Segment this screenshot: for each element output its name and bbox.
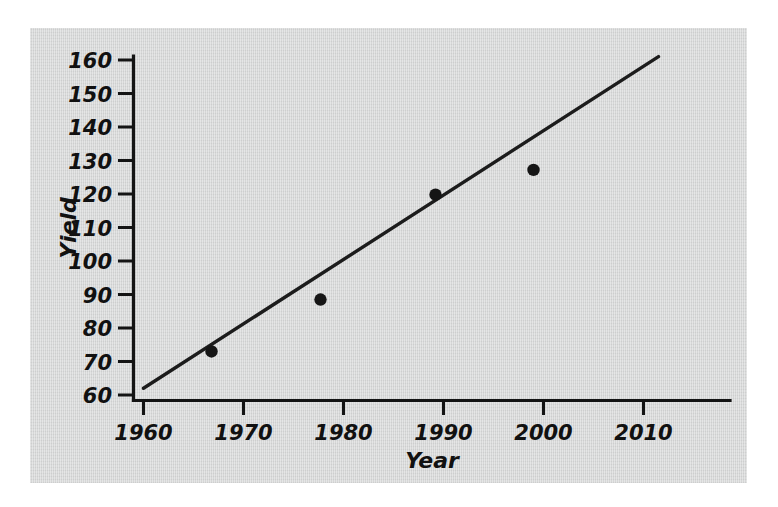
y-tick-label: 70 (83, 351, 112, 375)
y-tick-label: 150 (68, 83, 112, 107)
y-tick-label: 80 (83, 317, 112, 341)
chart-page: 60708090100110120130140150160 1960197019… (0, 0, 778, 507)
x-tick-label: 1990 (414, 421, 472, 445)
data-point (314, 293, 326, 305)
trend-line (144, 57, 659, 389)
y-axis-ticks (118, 60, 133, 395)
data-point (429, 188, 441, 200)
data-point (205, 345, 217, 357)
data-point (527, 164, 539, 176)
y-axis-title: Yield (56, 197, 81, 259)
scatter-plot: 60708090100110120130140150160 1960197019… (0, 0, 778, 507)
y-tick-label: 160 (68, 49, 112, 73)
x-axis-title: Year (405, 448, 460, 473)
x-tick-label: 2010 (614, 421, 672, 445)
x-tick-label: 2000 (514, 421, 572, 445)
x-tick-label: 1980 (314, 421, 372, 445)
x-axis-tick-labels: 196019701980199020002010 (114, 421, 672, 445)
y-tick-label: 130 (68, 150, 112, 174)
y-tick-label: 90 (83, 284, 112, 308)
x-axis-ticks (144, 400, 644, 415)
x-tick-label: 1960 (114, 421, 172, 445)
y-tick-label: 60 (83, 384, 112, 408)
y-tick-label: 140 (68, 116, 112, 140)
data-points (205, 164, 539, 358)
x-tick-label: 1970 (214, 421, 272, 445)
